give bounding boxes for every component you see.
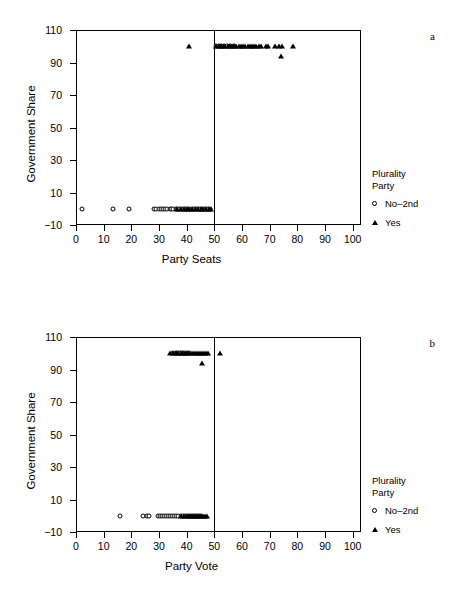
x-tick bbox=[214, 225, 215, 231]
x-tick-label: 30 bbox=[153, 540, 165, 552]
legend-label-yes-a: Yes bbox=[385, 217, 401, 229]
x-tick bbox=[131, 532, 132, 538]
x-tick-label: 70 bbox=[264, 233, 276, 245]
data-point-triangle bbox=[204, 513, 210, 518]
x-tick bbox=[353, 225, 354, 231]
x-tick bbox=[353, 532, 354, 538]
x-axis-title-text-a: Party Seats bbox=[162, 253, 221, 265]
y-tick-label: 70 bbox=[50, 396, 62, 408]
y-tick-label: −10 bbox=[44, 526, 62, 538]
x-tick bbox=[159, 225, 160, 231]
x-tick bbox=[325, 225, 326, 231]
legend-row-no2nd-a: No–2nd bbox=[372, 198, 449, 210]
data-point-circle bbox=[127, 206, 132, 211]
data-point-triangle bbox=[265, 44, 271, 49]
x-tick-label: 80 bbox=[292, 233, 304, 245]
y-tick bbox=[70, 63, 76, 64]
y-tick bbox=[70, 402, 76, 403]
panel-letter-b: b bbox=[430, 337, 436, 349]
y-tick-label: 70 bbox=[50, 89, 62, 101]
x-tick-label: 10 bbox=[98, 233, 110, 245]
data-point-triangle bbox=[217, 351, 223, 356]
x-tick-label: 30 bbox=[153, 233, 165, 245]
data-point-circle bbox=[110, 206, 115, 211]
x-tick bbox=[187, 225, 188, 231]
x-tick-label: 90 bbox=[319, 233, 331, 245]
data-point-circle bbox=[117, 513, 122, 518]
x-tick-label: 40 bbox=[181, 540, 193, 552]
y-tick-label: 110 bbox=[45, 331, 62, 343]
data-point-triangle bbox=[199, 361, 205, 366]
legend-row-yes-b: Yes bbox=[372, 524, 449, 536]
legend-title-a: Plurality Party bbox=[372, 168, 449, 191]
data-point-triangle bbox=[186, 44, 192, 49]
legend-label-no2nd-a: No–2nd bbox=[385, 198, 418, 210]
x-tick bbox=[297, 532, 298, 538]
x-axis-title-text-b: Party Vote bbox=[165, 560, 218, 572]
x-tick-label: 50 bbox=[209, 233, 221, 245]
x-tick-label: 100 bbox=[344, 233, 362, 245]
y-axis-title-a: Government Share bbox=[25, 34, 37, 234]
y-tick bbox=[70, 500, 76, 501]
y-tick bbox=[70, 95, 76, 96]
data-point-triangle bbox=[208, 206, 214, 211]
y-tick-label: −10 bbox=[44, 219, 62, 231]
x-tick bbox=[325, 532, 326, 538]
x-tick-label: 60 bbox=[236, 540, 248, 552]
plot-area-a bbox=[76, 30, 361, 225]
x-tick-label: 20 bbox=[125, 540, 137, 552]
legend-row-yes-a: Yes bbox=[372, 217, 449, 229]
x-tick-label: 70 bbox=[264, 540, 276, 552]
x-tick-label: 90 bbox=[319, 540, 331, 552]
y-tick-label: 50 bbox=[50, 122, 62, 134]
legend-a: Plurality Party No–2nd Yes bbox=[372, 168, 449, 228]
data-point-triangle bbox=[279, 44, 285, 49]
figure-scatter-plots: −101030507090110 0102030405060708090100 … bbox=[0, 0, 449, 614]
x-tick-label: 100 bbox=[344, 540, 362, 552]
x-tick-label: 10 bbox=[98, 540, 110, 552]
circle-icon bbox=[372, 508, 385, 513]
x-tick bbox=[76, 225, 77, 231]
y-tick bbox=[70, 30, 76, 31]
y-tick bbox=[70, 160, 76, 161]
panel-a: −101030507090110 0102030405060708090100 … bbox=[0, 0, 449, 307]
x-tick-label: 80 bbox=[292, 540, 304, 552]
data-point-circle bbox=[147, 513, 152, 518]
y-tick bbox=[70, 370, 76, 371]
y-tick-label: 10 bbox=[50, 187, 62, 199]
plot-area-b bbox=[76, 337, 361, 532]
triangle-icon bbox=[372, 527, 385, 532]
data-point-triangle bbox=[205, 351, 211, 356]
x-axis-title-a: Party Seats bbox=[0, 253, 449, 265]
data-point-triangle bbox=[278, 54, 284, 59]
x-axis-labels-b: 0102030405060708090100 bbox=[0, 540, 449, 556]
circle-icon bbox=[372, 201, 385, 206]
x-tick-label: 60 bbox=[236, 233, 248, 245]
x-axis-title-b: Party Vote bbox=[0, 560, 449, 572]
x-tick-label: 50 bbox=[209, 540, 221, 552]
x-tick bbox=[270, 225, 271, 231]
legend-row-no2nd-b: No–2nd bbox=[372, 505, 449, 517]
y-tick-label: 30 bbox=[50, 154, 62, 166]
y-tick-label: 10 bbox=[50, 494, 62, 506]
data-point-triangle bbox=[290, 44, 296, 49]
x-tick bbox=[131, 225, 132, 231]
legend-label-no2nd-b: No–2nd bbox=[385, 505, 418, 517]
y-tick-label: 90 bbox=[50, 57, 62, 69]
panel-letter-a: a bbox=[430, 30, 435, 42]
x-axis-labels-a: 0102030405060708090100 bbox=[0, 233, 449, 249]
y-tick bbox=[70, 337, 76, 338]
x-tick bbox=[242, 532, 243, 538]
x-tick-label: 0 bbox=[73, 540, 79, 552]
y-tick bbox=[70, 435, 76, 436]
x-tick-label: 40 bbox=[181, 233, 193, 245]
x-tick bbox=[187, 532, 188, 538]
reference-line-b bbox=[214, 337, 215, 532]
data-point-circle bbox=[79, 206, 84, 211]
y-axis-title-b: Government Share bbox=[25, 341, 37, 541]
y-tick bbox=[70, 193, 76, 194]
reference-line-a bbox=[214, 30, 215, 225]
x-tick bbox=[214, 532, 215, 538]
x-tick bbox=[242, 225, 243, 231]
x-tick bbox=[297, 225, 298, 231]
